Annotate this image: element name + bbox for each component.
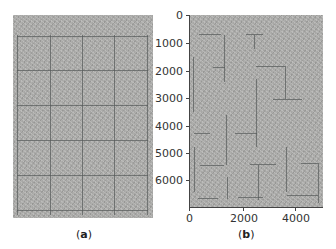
line-segment bbox=[301, 163, 318, 164]
y-tick-label: 1000 bbox=[143, 38, 183, 49]
line-segment bbox=[258, 165, 259, 200]
detected-lines-image bbox=[190, 15, 323, 207]
line-segment bbox=[226, 115, 227, 165]
grid-line bbox=[17, 105, 148, 106]
line-segment bbox=[199, 34, 221, 35]
line-segment bbox=[238, 197, 263, 198]
y-tick bbox=[186, 43, 189, 44]
caption-b: (b) bbox=[238, 228, 254, 241]
grid-line bbox=[17, 35, 18, 215]
line-segment bbox=[254, 35, 255, 49]
y-tick-label: 6000 bbox=[143, 175, 183, 186]
line-segment bbox=[273, 99, 302, 100]
line-segment bbox=[198, 198, 218, 199]
line-segment bbox=[235, 133, 257, 134]
y-tick-label: 0 bbox=[143, 10, 183, 21]
line-segment bbox=[256, 79, 257, 147]
line-segment bbox=[224, 35, 225, 82]
x-tick bbox=[189, 208, 190, 211]
grid-line bbox=[17, 70, 148, 71]
line-segment bbox=[318, 163, 319, 203]
line-segment bbox=[194, 133, 210, 134]
x-tick-label: 2000 bbox=[230, 213, 258, 224]
grid-line bbox=[17, 175, 148, 176]
grid-line bbox=[17, 210, 148, 211]
caption-a: (a) bbox=[76, 228, 92, 241]
y-tick bbox=[186, 15, 189, 16]
line-segment bbox=[194, 147, 195, 192]
line-segment bbox=[227, 177, 228, 199]
line-segment bbox=[213, 67, 225, 68]
y-tick-label: 4000 bbox=[143, 121, 183, 132]
y-axis bbox=[189, 15, 190, 208]
y-tick-label: 3000 bbox=[143, 93, 183, 104]
x-axis bbox=[189, 207, 323, 208]
x-tick bbox=[243, 208, 244, 211]
y-tick bbox=[186, 126, 189, 127]
y-tick bbox=[186, 153, 189, 154]
x-tick bbox=[295, 208, 296, 211]
line-segment bbox=[200, 165, 224, 166]
y-tick bbox=[186, 98, 189, 99]
line-segment bbox=[256, 66, 285, 67]
scanned-document-image bbox=[13, 15, 153, 218]
x-tick-label: 4000 bbox=[282, 213, 310, 224]
grid-line bbox=[114, 35, 115, 215]
grid-line bbox=[82, 35, 83, 215]
line-segment bbox=[286, 147, 287, 192]
line-segment bbox=[285, 66, 286, 99]
line-segment bbox=[287, 195, 318, 196]
y-tick-label: 2000 bbox=[143, 66, 183, 77]
line-segment bbox=[193, 57, 194, 112]
x-tick-label: 0 bbox=[186, 213, 193, 224]
y-tick bbox=[186, 71, 189, 72]
y-tick bbox=[186, 180, 189, 181]
grid-line bbox=[17, 140, 148, 141]
y-tick-label: 5000 bbox=[143, 148, 183, 159]
grid-line bbox=[50, 35, 51, 215]
grid-line bbox=[17, 36, 148, 37]
line-segment bbox=[250, 164, 276, 165]
